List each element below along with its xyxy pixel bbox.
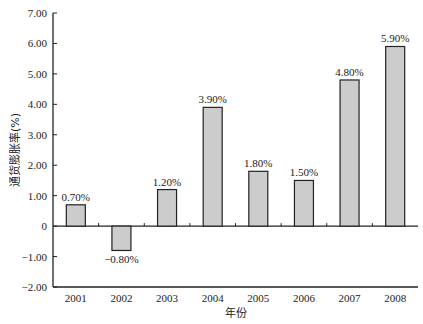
y-axis-title: 通货膨胀率(%) [8, 113, 22, 187]
x-tick-label: 2002 [110, 292, 132, 304]
y-tick-label: 0 [42, 220, 48, 232]
bar-2007 [340, 80, 359, 226]
data-label: 0.70% [62, 191, 90, 203]
y-tick-label: 5.00 [28, 68, 48, 80]
bar-2008 [386, 46, 405, 226]
y-tick-label: 2.00 [28, 159, 48, 171]
x-tick-label: 2006 [293, 292, 316, 304]
data-label: 1.50% [290, 166, 318, 178]
x-tick-label: 2003 [156, 292, 179, 304]
x-tick-label: 2008 [384, 292, 407, 304]
bar-2002 [112, 226, 131, 250]
x-axis-title: 年份 [225, 306, 247, 320]
x-tick-label: 2007 [339, 292, 362, 304]
data-label: 4.80% [335, 66, 363, 78]
data-label: 5.90% [381, 32, 409, 44]
x-tick-label: 2005 [247, 292, 270, 304]
y-tick-label: 6.00 [28, 37, 48, 49]
x-tick-label: 2001 [65, 292, 87, 304]
data-label: 1.20% [153, 176, 181, 188]
bar-2001 [66, 205, 85, 226]
y-tick-label: 1.00 [28, 190, 48, 202]
inflation-bar-chart: 7.006.005.004.003.002.001.000−1.00−2.00 … [0, 0, 423, 324]
bar-2004 [203, 107, 222, 226]
bar-2006 [294, 180, 313, 226]
bars: 0.70%−0.80%1.20%3.90%1.80%1.50%4.80%5.90… [62, 32, 410, 265]
y-tick-label: −2.00 [22, 281, 48, 293]
y-tick-label: 4.00 [28, 98, 48, 110]
x-tick-label: 2004 [202, 292, 225, 304]
data-label: −0.80% [104, 253, 139, 265]
y-tick-label: 3.00 [28, 129, 48, 141]
y-axis: 7.006.005.004.003.002.001.000−1.00−2.00 [22, 7, 57, 293]
y-tick-label: −1.00 [22, 251, 48, 263]
bar-2005 [249, 171, 268, 226]
data-label: 1.80% [244, 157, 272, 169]
y-tick-label: 7.00 [28, 7, 48, 19]
data-label: 3.90% [198, 93, 226, 105]
bar-2003 [158, 190, 177, 227]
